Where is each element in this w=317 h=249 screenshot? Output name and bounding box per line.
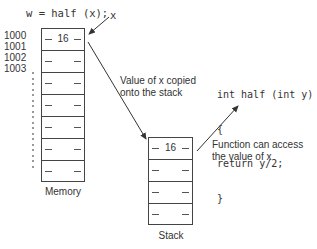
stack-cell: 16 (149, 138, 192, 160)
address-1001: 1001 (4, 41, 26, 52)
memory-cell: 16 (42, 29, 84, 51)
memory-cell (42, 117, 84, 139)
address-1003: 1003 (4, 63, 26, 74)
memory-cell (42, 95, 84, 117)
copy-note-line2: onto the stack (120, 87, 196, 99)
stack-block: 16 (148, 137, 193, 225)
x-pointer-label: x (110, 9, 116, 21)
x-pointer-arrow (89, 17, 109, 34)
memory-label: Memory (35, 186, 91, 197)
memory-cell (42, 51, 84, 73)
memory-block: 16 (41, 28, 85, 182)
access-note: Function can access the value of x (212, 139, 303, 163)
copy-note-line1: Value of x copied (120, 75, 196, 87)
memory-cell (42, 73, 84, 95)
code-line: } (217, 193, 313, 205)
memory-cell (42, 161, 84, 183)
stack-cell (149, 160, 192, 182)
address-1002: 1002 (4, 52, 26, 63)
stack-label: Stack (145, 230, 197, 241)
address-1000: 1000 (4, 30, 26, 41)
access-note-line2: the value of x (212, 151, 303, 163)
memory-cell (42, 139, 84, 161)
copy-note: Value of x copied onto the stack (120, 75, 196, 99)
address-continuation-dots (32, 72, 36, 171)
stack-cell (149, 182, 192, 204)
code-line: { (217, 124, 313, 136)
code-line: int half (int y) (217, 89, 313, 101)
function-call-code: w = half (x); (26, 7, 108, 19)
stack-cell (149, 204, 192, 226)
access-note-line1: Function can access (212, 139, 303, 151)
